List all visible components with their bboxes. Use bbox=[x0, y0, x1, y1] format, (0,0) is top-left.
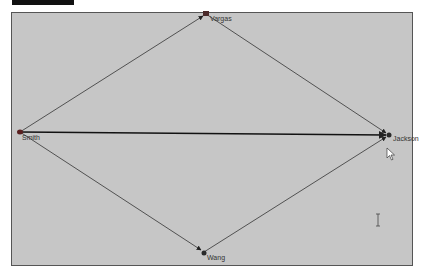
edge-smith-vargas[interactable] bbox=[20, 16, 203, 132]
mouse-pointer-icon bbox=[387, 148, 395, 160]
node-label-smith: Smith bbox=[22, 134, 40, 141]
node-label-vargas: Vargas bbox=[210, 15, 232, 23]
edge-smith-wang[interactable] bbox=[20, 132, 201, 250]
node-smith[interactable]: Smith bbox=[17, 130, 40, 142]
screenshot-stage: Vargas Smith Jackson Wang bbox=[0, 0, 430, 278]
edge-wang-jackson[interactable] bbox=[204, 137, 386, 252]
node-jackson[interactable]: Jackson bbox=[387, 133, 419, 143]
edge-smith-jackson[interactable] bbox=[20, 132, 386, 135]
node-wang[interactable]: Wang bbox=[202, 251, 226, 263]
text-cursor-icon bbox=[376, 214, 380, 226]
edge-vargas-jackson[interactable] bbox=[206, 14, 386, 133]
node-label-wang: Wang bbox=[207, 254, 225, 262]
network-diagram: Vargas Smith Jackson Wang bbox=[0, 0, 430, 278]
node-vargas[interactable]: Vargas bbox=[203, 11, 232, 23]
node-label-jackson: Jackson bbox=[393, 135, 419, 142]
